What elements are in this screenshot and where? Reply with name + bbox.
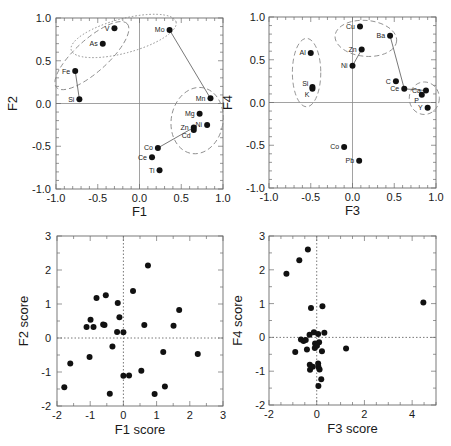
data-point xyxy=(303,337,309,343)
y-axis-title: F2 score xyxy=(16,296,31,347)
x-tick-label: 0.0 xyxy=(132,192,147,204)
data-point xyxy=(309,86,315,92)
data-point xyxy=(103,292,109,298)
x-tick-label: 0 xyxy=(120,409,126,421)
y-tick-label: 0 xyxy=(45,332,51,344)
point-label: Ni xyxy=(341,62,348,69)
point-label: Fe xyxy=(62,68,70,75)
y-tick-label: -1 xyxy=(255,365,265,377)
data-point xyxy=(319,303,325,309)
data-point xyxy=(116,314,122,320)
data-point xyxy=(307,332,313,338)
y-tick-label: 2 xyxy=(259,264,265,276)
point-label: Si xyxy=(302,80,309,87)
data-point xyxy=(126,372,132,378)
data-point xyxy=(138,368,144,374)
data-point xyxy=(107,391,113,397)
data-point xyxy=(305,247,311,253)
data-point xyxy=(88,317,94,323)
data-point xyxy=(84,324,90,330)
x-tick-label: 0.0 xyxy=(345,191,360,203)
data-point xyxy=(141,322,147,328)
point-label: Co xyxy=(330,143,339,150)
data-point xyxy=(155,145,161,151)
y-tick-label: 0.0 xyxy=(36,98,51,110)
x-axis-title: F3 xyxy=(345,203,360,218)
data-point xyxy=(94,295,100,301)
point-label: Zn xyxy=(181,124,189,131)
point-label: Mn xyxy=(196,95,206,102)
data-point xyxy=(314,343,320,349)
y-tick-label: -1 xyxy=(41,366,51,378)
data-point xyxy=(283,271,289,277)
data-point xyxy=(145,263,151,269)
point-label: Cu xyxy=(346,23,355,30)
factor-analysis-figure: -1.0-0.50.00.51.0-1.0-0.50.00.51.0F1F2VA… xyxy=(0,0,451,446)
x-tick-label: 0 xyxy=(314,408,320,420)
x-tick-label: 3 xyxy=(220,409,226,421)
point-label: As xyxy=(90,40,99,47)
y-axis-title: F4 xyxy=(220,95,235,110)
data-point xyxy=(292,349,298,355)
data-point xyxy=(350,63,356,69)
point-label: Cd xyxy=(182,132,191,139)
y-axis-title: F2 xyxy=(5,96,20,111)
point-label: Ce xyxy=(138,154,147,161)
point-label: Mo xyxy=(155,26,165,33)
data-point xyxy=(319,348,325,354)
data-point xyxy=(91,324,97,330)
data-point xyxy=(304,347,310,353)
x-tick-label: 1.0 xyxy=(428,191,443,203)
y-axis-title: F4 score xyxy=(230,295,245,346)
y-tick-label: 1 xyxy=(45,298,51,310)
x-tick-label: -0.5 xyxy=(88,192,107,204)
y-tick-label: 1.0 xyxy=(250,11,265,23)
data-point xyxy=(130,288,136,294)
x-tick-label: 0.5 xyxy=(174,192,189,204)
data-point xyxy=(356,158,362,164)
data-point xyxy=(152,391,158,397)
point-label: Mg xyxy=(185,110,195,118)
y-tick-label: 0.5 xyxy=(250,54,265,66)
data-point xyxy=(419,92,425,98)
data-point xyxy=(359,46,365,52)
data-point xyxy=(120,329,126,335)
data-point xyxy=(425,105,431,111)
point-label: Co xyxy=(144,144,153,151)
y-tick-label: -0.5 xyxy=(246,139,265,151)
y-tick-label: -1.0 xyxy=(246,182,265,194)
point-label: Zn xyxy=(349,46,357,53)
data-point xyxy=(318,376,324,382)
x-tick-label: 2 xyxy=(361,408,367,420)
data-point xyxy=(341,144,347,150)
data-point xyxy=(191,127,197,133)
data-point xyxy=(310,364,316,370)
y-tick-label: 0 xyxy=(259,331,265,343)
y-tick-label: 0.0 xyxy=(250,97,265,109)
data-point xyxy=(157,167,163,173)
data-point xyxy=(72,68,78,74)
data-point xyxy=(357,23,363,29)
data-point xyxy=(111,25,117,31)
data-point xyxy=(207,95,213,101)
y-tick-label: -1.0 xyxy=(32,183,51,195)
x-tick-label: -2 xyxy=(264,408,274,420)
x-tick-label: 1 xyxy=(154,409,160,421)
data-point xyxy=(197,111,203,117)
x-tick-label: 4 xyxy=(409,408,415,420)
data-point xyxy=(61,384,67,390)
point-label: Ba xyxy=(377,32,386,39)
data-point xyxy=(109,344,115,350)
x-tick-label: -2 xyxy=(52,409,62,421)
y-tick-label: 1 xyxy=(259,298,265,310)
x-axis-title: F1 score xyxy=(115,422,166,437)
data-point xyxy=(315,331,321,337)
data-point xyxy=(387,33,393,39)
point-label: K xyxy=(305,91,310,98)
y-tick-label: 0.5 xyxy=(36,55,51,67)
data-point xyxy=(296,257,302,263)
point-label: Ce xyxy=(390,85,399,92)
data-point xyxy=(149,154,155,160)
x-tick-label: -0.5 xyxy=(301,191,320,203)
data-point xyxy=(67,361,73,367)
